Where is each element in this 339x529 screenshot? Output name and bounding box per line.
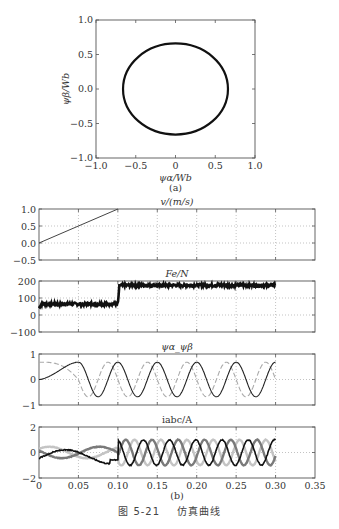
- y-tick-label: 0.5: [21, 221, 36, 232]
- flux-circle-plot: −1.0−0.500.51.01.00.50.0−0.5−1.0ψα/Wb(a)…: [60, 14, 263, 193]
- y-tick-label: 0.5: [78, 49, 93, 60]
- y-tick-label: 0: [30, 310, 36, 321]
- subplot-v: 1.00.50.0−0.5v/(m/s): [13, 196, 315, 266]
- caption-text: 仿真曲线: [177, 506, 221, 517]
- subplot-iabc: 20−2iabc/A00.050.100.150.200.250.300.35(…: [22, 414, 326, 501]
- velocity-line: [39, 209, 118, 243]
- y-tick-label: 0.0: [21, 238, 36, 249]
- figure-caption: 图 5-21 仿真曲线: [0, 503, 339, 518]
- caption-number: 图 5-21: [118, 506, 160, 517]
- x-tick-label: 0.30: [265, 480, 286, 491]
- y-tick-label: 0: [30, 374, 36, 385]
- y-tick-label: 0: [30, 447, 36, 458]
- x-tick-label: 1.0: [247, 160, 262, 171]
- subplot-F: 2001000−100Fe/N: [10, 268, 315, 338]
- y-tick-label: −0.5: [13, 255, 36, 266]
- subplot-title: v/(m/s): [160, 196, 193, 207]
- y-tick-label: 200: [18, 276, 36, 287]
- y-tick-label: −0.5: [70, 118, 93, 129]
- x-tick-label: −0.5: [124, 160, 147, 171]
- x-tick-label: 0.20: [186, 480, 207, 491]
- y-tick-label: 100: [18, 293, 36, 304]
- x-tick-label: 0.15: [147, 480, 168, 491]
- y-tick-label: −1.0: [70, 152, 93, 163]
- y-tick-label: −2: [22, 473, 36, 484]
- x-tick-label: 0.10: [107, 480, 128, 491]
- y-tick-label: 1.0: [78, 14, 93, 25]
- y-tick-label: 0.0: [78, 83, 93, 94]
- x-tick-label: 0: [172, 160, 178, 171]
- subplot-title: iabc/A: [162, 414, 192, 425]
- x-tick-label: 0.35: [304, 480, 325, 491]
- y-tick-label: 2: [30, 422, 36, 433]
- y-tick-label: −1: [22, 400, 36, 411]
- x-tick-label: 0: [36, 480, 42, 491]
- y-tick-label: 1: [30, 349, 36, 360]
- x-tick-label: 0.05: [68, 480, 89, 491]
- subplot-psi: 10−1ψα_ψβ: [22, 341, 315, 411]
- subplot-title: ψα_ψβ: [161, 341, 193, 353]
- y-tick-label: −100: [10, 327, 36, 338]
- panel-b-label: (b): [170, 490, 184, 501]
- simulation-figure: −1.0−0.500.51.01.00.50.0−0.5−1.0ψα/Wb(a)…: [0, 0, 339, 529]
- x-tick-label: 0.25: [226, 480, 247, 491]
- flux-locus-curve: [123, 43, 228, 134]
- y-axis-label: ψβ/Wb: [60, 73, 71, 105]
- panel-a-label: (a): [169, 182, 182, 193]
- x-tick-label: 0.5: [208, 160, 223, 171]
- y-tick-label: 1.0: [21, 204, 36, 215]
- subplot-title: Fe/N: [164, 268, 189, 279]
